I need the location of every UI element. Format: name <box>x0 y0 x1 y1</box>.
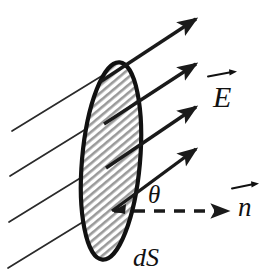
vector-E-wrapper: E <box>213 82 231 112</box>
vector-n-wrapper: n <box>238 194 252 221</box>
electric-flux-diagram: E n θ dS <box>0 0 279 279</box>
surface-element-dS <box>73 60 148 262</box>
label-E-text: E <box>213 80 231 113</box>
label-area-element: dS <box>133 245 159 271</box>
label-electric-field-vector: E <box>213 82 231 112</box>
vector-overbar-arrow-icon <box>207 69 237 80</box>
label-n-text: n <box>238 192 252 222</box>
label-angle-theta: θ <box>148 182 160 207</box>
diagram-canvas <box>0 0 279 279</box>
vector-overbar-arrow-icon <box>231 181 259 192</box>
label-normal-vector: n <box>238 194 252 221</box>
